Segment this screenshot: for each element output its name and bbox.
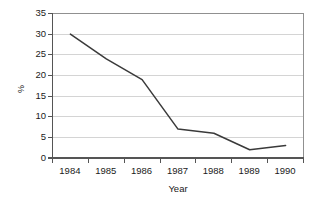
y-tick-label-5: 5 [22, 132, 46, 142]
x-axis-tick-labels: 1984 1985 1986 1987 1988 1989 1990 [52, 165, 304, 179]
y-tick-label-30: 30 [22, 29, 46, 39]
y-tick-label-0: 0 [22, 153, 46, 163]
x-axis-ticks [53, 158, 304, 163]
x-tick-label-1985: 1985 [86, 165, 126, 176]
x-tick-label-1984: 1984 [50, 165, 90, 176]
y-tick-label-10: 10 [22, 111, 46, 121]
x-axis-title: Year [52, 183, 304, 194]
x-tick-label-1988: 1988 [193, 165, 233, 176]
x-tick-label-1990: 1990 [265, 165, 305, 176]
y-tick-label-15: 15 [22, 91, 46, 101]
x-tick-label-1989: 1989 [229, 165, 269, 176]
y-tick-label-25: 25 [22, 49, 46, 59]
y-axis-ticks [48, 14, 53, 159]
line-chart-figure: % 0 5 10 15 20 25 30 35 1984 1985 1986 1… [0, 0, 321, 204]
x-tick-label-1987: 1987 [158, 165, 198, 176]
y-tick-label-35: 35 [22, 8, 46, 18]
x-tick-label-1986: 1986 [122, 165, 162, 176]
y-tick-label-20: 20 [22, 70, 46, 80]
y-axis-tick-labels: 0 5 10 15 20 25 30 35 [22, 13, 46, 158]
plot-background [53, 14, 304, 159]
